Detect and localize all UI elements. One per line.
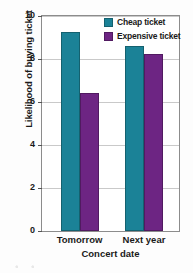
y-tick-label: 2 xyxy=(13,182,35,192)
y-tick-label: 4 xyxy=(13,139,35,149)
legend-swatch-icon xyxy=(104,18,113,27)
legend-label: Expensive ticket xyxy=(117,31,180,41)
y-tick-label: 10 xyxy=(13,10,35,20)
bar-tomorrow-cheap-ticket xyxy=(61,32,80,231)
y-tick-mark xyxy=(38,59,42,60)
y-tick-mark xyxy=(38,231,42,232)
legend-item-cheap-ticket: Cheap ticket xyxy=(104,16,178,28)
chart-legend: Cheap ticket Expensive ticket xyxy=(104,16,178,44)
bar-chart-figure: Likelihood of buying ticket 0246810 Tomo… xyxy=(0,0,193,273)
y-tick-mark xyxy=(38,145,42,146)
y-tick-label: 8 xyxy=(13,53,35,63)
x-axis-title: Concert date xyxy=(41,248,180,259)
bar-next-year-cheap-ticket xyxy=(125,46,144,231)
scan-artifact xyxy=(8,262,48,270)
y-tick-label: 0 xyxy=(13,225,35,235)
y-tick-mark xyxy=(38,16,42,17)
legend-swatch-icon xyxy=(104,32,113,41)
bar-tomorrow-expensive-ticket xyxy=(80,93,99,231)
legend-item-expensive-ticket: Expensive ticket xyxy=(104,30,178,42)
y-tick-mark xyxy=(38,102,42,103)
y-axis-title: Likelihood of buying ticket xyxy=(23,0,37,159)
bar-next-year-expensive-ticket xyxy=(144,54,163,231)
y-tick-mark xyxy=(38,188,42,189)
x-tick-label: Next year xyxy=(104,234,184,245)
legend-label: Cheap ticket xyxy=(117,17,165,27)
y-tick-label: 6 xyxy=(13,96,35,106)
